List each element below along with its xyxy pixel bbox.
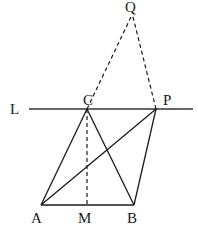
- label-p: P: [163, 92, 171, 108]
- label-b: B: [127, 210, 137, 226]
- segment-cq: [87, 17, 131, 109]
- geometry-diagram: Q C P L A M B: [0, 0, 198, 226]
- label-q: Q: [125, 0, 136, 15]
- segment-bp: [134, 109, 156, 205]
- label-l: L: [10, 101, 19, 117]
- segment-cb: [87, 109, 134, 205]
- segment-pq: [133, 17, 156, 109]
- label-c: C: [83, 92, 93, 108]
- segment-ap: [41, 109, 156, 205]
- segment-ac: [41, 109, 87, 205]
- label-m: M: [78, 210, 91, 226]
- label-a: A: [31, 210, 42, 226]
